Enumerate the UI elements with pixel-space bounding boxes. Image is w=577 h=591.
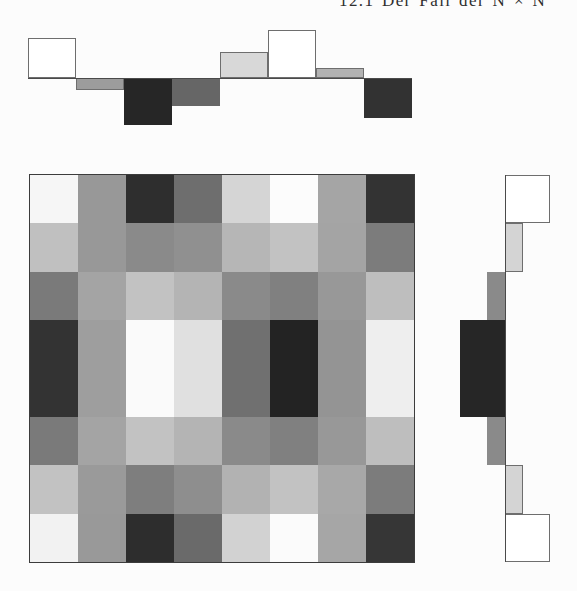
- top-profile-baseline: [28, 78, 412, 79]
- right-profile-bar-5: [460, 369, 505, 417]
- right-profile-baseline: [505, 175, 506, 562]
- right-profile-bar-2: [505, 223, 523, 271]
- right-profile-bar-1: [505, 175, 550, 223]
- right-profile-bar-3: [487, 272, 505, 320]
- page-root: 12.1 Der Fall der N × N: [0, 0, 577, 591]
- figure: [0, 0, 577, 591]
- right-profile-bar-6: [487, 417, 505, 465]
- right-profile-bar-4: [460, 320, 505, 368]
- right-profile-bar-7: [505, 465, 523, 513]
- right-profile: [0, 0, 577, 591]
- right-profile-bar-8: [505, 514, 550, 562]
